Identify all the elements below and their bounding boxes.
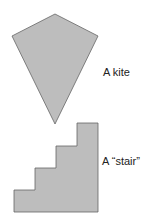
- stair-label: A “stair”: [102, 155, 140, 167]
- stair-shape: [14, 123, 98, 212]
- kite-label: A kite: [103, 66, 130, 78]
- kite-shape: [12, 14, 98, 124]
- diagram-canvas: [0, 0, 158, 224]
